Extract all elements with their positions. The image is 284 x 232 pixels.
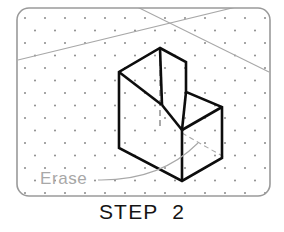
- grid-dot: [84, 92, 86, 94]
- grid-dot: [244, 167, 246, 169]
- grid-dot: [254, 130, 256, 132]
- grid-dot: [174, 155, 176, 157]
- grid-dot: [234, 180, 236, 182]
- grid-dot: [234, 105, 236, 107]
- grid-dot: [224, 192, 226, 194]
- grid-dot: [204, 17, 206, 19]
- grid-dot: [74, 130, 76, 132]
- grid-dot: [194, 80, 196, 82]
- grid-dot: [94, 130, 96, 132]
- grid-dot: [164, 192, 166, 194]
- grid-dot: [24, 67, 26, 69]
- figure-screen: Erase STEP 2: [0, 0, 284, 232]
- grid-dot: [94, 105, 96, 107]
- grid-dot: [64, 92, 66, 94]
- grid-dot: [24, 167, 26, 169]
- grid-dot: [244, 67, 246, 69]
- grid-dot: [54, 155, 56, 157]
- grid-dot: [94, 180, 96, 182]
- grid-dot: [264, 42, 266, 44]
- grid-dot: [124, 42, 126, 44]
- grid-dot: [44, 17, 46, 19]
- grid-dot: [264, 67, 266, 69]
- grid-dot: [254, 105, 256, 107]
- grid-dot: [184, 142, 186, 144]
- grid-dot: [114, 30, 116, 32]
- grid-dot: [234, 130, 236, 132]
- grid-dot: [64, 142, 66, 144]
- grid-dot: [144, 167, 146, 169]
- grid-dot: [34, 130, 36, 132]
- grid-dot: [264, 142, 266, 144]
- grid-dot: [124, 92, 126, 94]
- grid-dot: [84, 67, 86, 69]
- grid-dot: [54, 130, 56, 132]
- grid-dot: [234, 80, 236, 82]
- grid-dot: [84, 117, 86, 119]
- grid-dot: [74, 105, 76, 107]
- grid-dot: [184, 192, 186, 194]
- grid-dot: [114, 130, 116, 132]
- grid-dot: [64, 117, 66, 119]
- grid-dot: [164, 17, 166, 19]
- grid-dot: [54, 55, 56, 57]
- grid-dot: [64, 192, 66, 194]
- grid-dot: [44, 142, 46, 144]
- figure-caption: STEP 2: [0, 200, 284, 224]
- grid-dot: [174, 30, 176, 32]
- grid-dot: [224, 167, 226, 169]
- grid-dot: [204, 67, 206, 69]
- grid-dot: [194, 30, 196, 32]
- grid-dot: [244, 42, 246, 44]
- grid-dot: [254, 80, 256, 82]
- grid-dot: [34, 105, 36, 107]
- grid-dot: [104, 117, 106, 119]
- grid-dot: [224, 17, 226, 19]
- grid-dot: [44, 42, 46, 44]
- grid-dot: [124, 142, 126, 144]
- grid-dot: [194, 130, 196, 132]
- grid-dot: [154, 180, 156, 182]
- grid-dot: [44, 192, 46, 194]
- grid-dot: [24, 92, 26, 94]
- grid-dot: [104, 67, 106, 69]
- grid-dot: [84, 142, 86, 144]
- grid-dot: [134, 130, 136, 132]
- grid-dot: [144, 117, 146, 119]
- grid-dot: [124, 167, 126, 169]
- grid-dot: [214, 155, 216, 157]
- grid-dot: [144, 192, 146, 194]
- grid-dot: [234, 30, 236, 32]
- grid-dot: [174, 130, 176, 132]
- grid-dot: [54, 30, 56, 32]
- grid-dot: [164, 42, 166, 44]
- grid-dot: [264, 92, 266, 94]
- grid-dot: [214, 80, 216, 82]
- grid-dot: [94, 30, 96, 32]
- grid-dot: [154, 105, 156, 107]
- grid-dot: [244, 92, 246, 94]
- grid-dot: [204, 92, 206, 94]
- grid-dot: [184, 42, 186, 44]
- grid-dot: [24, 142, 26, 144]
- grid-dot: [154, 80, 156, 82]
- grid-dot: [64, 17, 66, 19]
- grid-dot: [104, 42, 106, 44]
- grid-dot: [214, 130, 216, 132]
- isometric-drawing-svg: Erase: [0, 0, 284, 202]
- grid-dot: [114, 80, 116, 82]
- grid-dot: [154, 55, 156, 57]
- grid-dot: [94, 155, 96, 157]
- grid-dot: [144, 17, 146, 19]
- grid-dot: [74, 30, 76, 32]
- grid-dot: [224, 92, 226, 94]
- grid-dot: [194, 155, 196, 157]
- grid-dot: [164, 117, 166, 119]
- grid-dot: [254, 55, 256, 57]
- grid-dot: [104, 142, 106, 144]
- grid-dot: [34, 30, 36, 32]
- grid-dot: [184, 167, 186, 169]
- grid-dot: [54, 80, 56, 82]
- grid-dot: [114, 105, 116, 107]
- grid-dot: [224, 67, 226, 69]
